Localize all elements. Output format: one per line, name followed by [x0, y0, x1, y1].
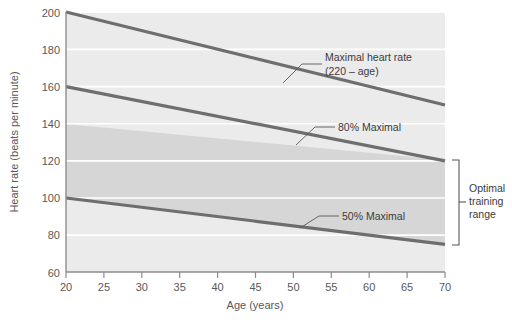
x-tick-label-20: 20 — [60, 281, 72, 293]
y-tick-label-80: 80 — [48, 229, 60, 241]
optimal-training-range-label-line3: range — [469, 208, 496, 220]
annotation-50-percent-maximal: 50% Maximal — [342, 210, 405, 222]
y-tick-label-120: 120 — [42, 155, 60, 167]
x-axis-tick-labels: 20 25 30 35 40 45 50 55 60 65 70 — [60, 281, 451, 293]
y-tick-label-160: 160 — [42, 81, 60, 93]
y-axis-tick-labels: 200 180 160 140 120 100 80 60 — [42, 7, 60, 279]
x-tick-label-40: 40 — [211, 281, 223, 293]
x-tick-label-55: 55 — [325, 281, 337, 293]
x-tick-label-35: 35 — [174, 281, 186, 293]
y-tick-label-100: 100 — [42, 192, 60, 204]
y-tick-label-140: 140 — [42, 118, 60, 130]
x-tick-label-70: 70 — [439, 281, 451, 293]
heart-rate-training-zone-chart: 200 180 160 140 120 100 80 60 20 25 30 3… — [0, 0, 512, 326]
x-axis-ticks — [66, 272, 445, 278]
chart-svg: 200 180 160 140 120 100 80 60 20 25 30 3… — [0, 0, 512, 326]
x-tick-label-30: 30 — [136, 281, 148, 293]
y-tick-label-60: 60 — [48, 267, 60, 279]
y-tick-label-180: 180 — [42, 44, 60, 56]
optimal-training-range-label-line1: Optimal — [469, 182, 505, 194]
x-tick-label-65: 65 — [401, 281, 413, 293]
optimal-training-range-bracket — [452, 160, 459, 245]
y-axis-title: Heart rate (beats per minute) — [8, 71, 20, 212]
optimal-training-range-label-line2: training — [469, 195, 504, 207]
x-tick-label-25: 25 — [98, 281, 110, 293]
annotation-80-percent-maximal: 80% Maximal — [338, 121, 401, 133]
annotation-maximal-heart-rate-line2: (220 – age) — [325, 65, 379, 77]
x-tick-label-50: 50 — [287, 281, 299, 293]
annotation-maximal-heart-rate-line1: Maximal heart rate — [325, 51, 412, 63]
x-tick-label-45: 45 — [249, 281, 261, 293]
y-tick-label-200: 200 — [42, 7, 60, 19]
x-axis-title: Age (years) — [227, 299, 284, 311]
x-tick-label-60: 60 — [363, 281, 375, 293]
